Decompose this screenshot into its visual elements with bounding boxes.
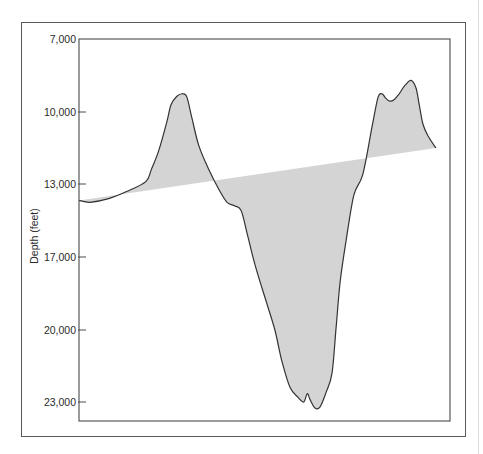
y-tick-label: 20,000: [44, 324, 76, 336]
y-axis-title: Depth (feet): [28, 208, 40, 263]
y-tick-label: 7,000: [50, 33, 76, 45]
y-tick-label: 13,000: [44, 178, 76, 190]
y-tick-label: 23,000: [44, 396, 76, 408]
depth-profile-chart: 7,00010,00013,00017,00020,00023,000 Dept…: [0, 0, 483, 454]
y-tick-label: 10,000: [44, 106, 76, 118]
y-tick-label: 17,000: [44, 251, 76, 263]
